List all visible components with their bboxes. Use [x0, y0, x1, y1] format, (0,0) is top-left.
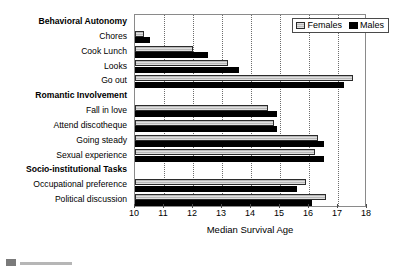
- x-tick-label-13: 13: [216, 208, 226, 218]
- x-tick-mark-11: [163, 204, 164, 208]
- bar-males-fall-in-love: [135, 111, 277, 117]
- x-tick-mark-16: [308, 204, 309, 208]
- bar-females-political-discussion: [135, 194, 326, 200]
- x-axis-title: Median Survival Age: [134, 224, 366, 235]
- bar-males-occupational-preference: [135, 186, 297, 192]
- x-tick-mark-10: [134, 204, 135, 208]
- plot-area: [134, 14, 366, 207]
- category-label-political-discussion: Political discussion: [55, 194, 127, 204]
- bar-males-chores: [135, 37, 150, 43]
- category-label-column: Behavioral AutonomyChoresCook LunchLooks…: [0, 14, 131, 207]
- category-label-romantic-involvement: Romantic Involvement: [35, 90, 127, 100]
- category-label-going-steady: Going steady: [76, 135, 127, 145]
- x-tick-mark-17: [337, 204, 338, 208]
- category-label-behavioral-autonomy: Behavioral Autonomy: [39, 16, 128, 26]
- bar-females-cook-lunch: [135, 46, 193, 52]
- bar-females-occupational-preference: [135, 179, 306, 185]
- bar-females-go-out: [135, 75, 353, 81]
- x-tick-label-15: 15: [274, 208, 284, 218]
- legend-swatch-females-icon: [296, 22, 305, 29]
- gridline-17: [338, 15, 339, 206]
- bar-males-go-out: [135, 82, 344, 88]
- x-tick-label-18: 18: [361, 208, 371, 218]
- bar-females-chores: [135, 31, 144, 37]
- category-label-fall-in-love: Fall in love: [86, 105, 127, 115]
- bar-males-looks: [135, 67, 239, 73]
- category-label-cook-lunch: Cook Lunch: [81, 46, 127, 56]
- x-tick-label-16: 16: [303, 208, 313, 218]
- chart-legend: Females Males: [292, 18, 389, 33]
- category-label-looks: Looks: [104, 61, 127, 71]
- category-label-occupational-preference: Occupational preference: [33, 179, 127, 189]
- x-tick-mark-12: [192, 204, 193, 208]
- x-tick-label-17: 17: [332, 208, 342, 218]
- x-tick-label-10: 10: [129, 208, 139, 218]
- x-tick-mark-14: [250, 204, 251, 208]
- bar-males-attend-discotheque: [135, 126, 277, 132]
- bar-males-sexual-experience: [135, 156, 324, 162]
- x-axis-ticks: 101112131415161718: [134, 208, 366, 222]
- bar-males-political-discussion: [135, 200, 312, 206]
- category-label-sexual-experience: Sexual experience: [56, 150, 127, 160]
- x-tick-label-14: 14: [245, 208, 255, 218]
- category-label-go-out: Go out: [101, 75, 127, 85]
- scan-artifact: [6, 259, 16, 266]
- x-tick-label-12: 12: [187, 208, 197, 218]
- bar-females-looks: [135, 60, 228, 66]
- legend-swatch-males-icon: [349, 22, 358, 29]
- category-label-attend-discotheque: Attend discotheque: [53, 120, 127, 130]
- bar-females-fall-in-love: [135, 105, 268, 111]
- bar-males-going-steady: [135, 141, 324, 147]
- scan-artifact: [20, 262, 72, 265]
- bar-males-cook-lunch: [135, 52, 208, 58]
- x-tick-mark-13: [221, 204, 222, 208]
- median-survival-age-bar-chart: Behavioral AutonomyChoresCook LunchLooks…: [0, 0, 395, 271]
- category-label-socio-institutional-tasks: Socio-institutional Tasks: [26, 164, 127, 174]
- x-tick-mark-18: [366, 204, 367, 208]
- bar-females-sexual-experience: [135, 149, 315, 155]
- gridline-16: [309, 15, 310, 206]
- category-label-chores: Chores: [99, 31, 127, 41]
- legend-item-males: Males: [349, 20, 384, 30]
- legend-label-males: Males: [360, 20, 384, 30]
- legend-item-females: Females: [296, 20, 342, 30]
- bar-females-going-steady: [135, 135, 318, 141]
- legend-label-females: Females: [307, 20, 342, 30]
- bar-females-attend-discotheque: [135, 120, 274, 126]
- gridline-15: [280, 15, 281, 206]
- x-tick-label-11: 11: [158, 208, 167, 218]
- x-tick-mark-15: [279, 204, 280, 208]
